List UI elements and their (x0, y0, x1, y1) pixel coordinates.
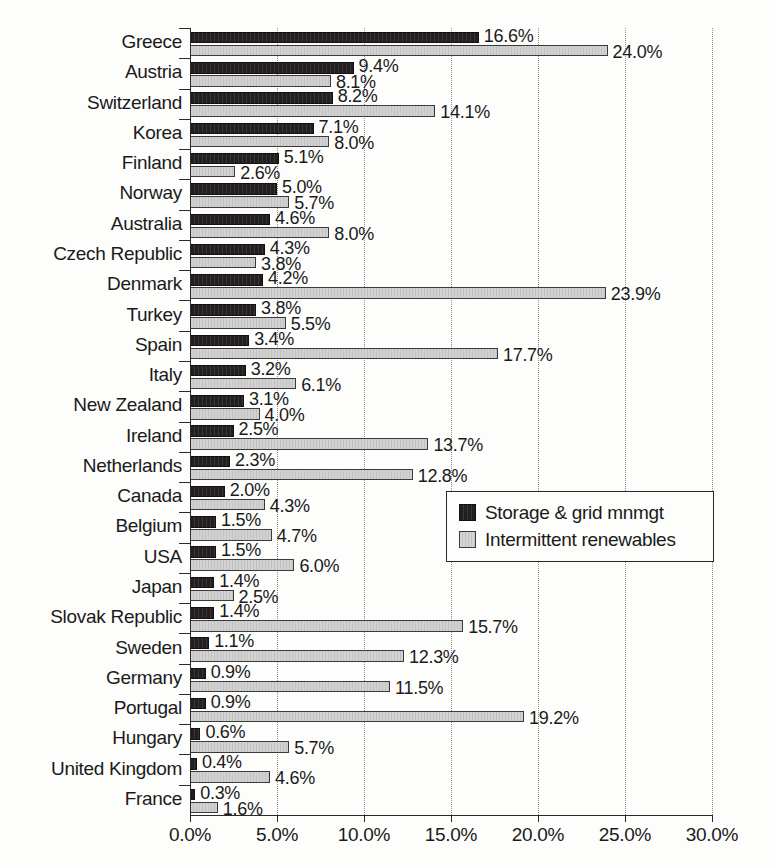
bar-storage[interactable] (190, 92, 333, 104)
y-axis-line (190, 28, 191, 815)
bar-storage[interactable] (190, 335, 249, 347)
y-tick (179, 240, 190, 241)
value-label-storage: 16.6% (484, 26, 534, 47)
category-label-austria: Austria (0, 61, 182, 83)
bar-storage[interactable] (190, 516, 216, 528)
bar-storage[interactable] (190, 425, 234, 437)
bar-storage[interactable] (190, 395, 244, 407)
x-tick-20.0 (538, 815, 539, 822)
bar-renewables[interactable] (190, 136, 329, 148)
category-label-finland: Finland (0, 152, 182, 174)
x-tick-label: 5.0% (256, 824, 298, 846)
y-tick (179, 89, 190, 90)
category-label-greece: Greece (0, 31, 182, 53)
bar-storage[interactable] (190, 607, 214, 619)
x-tick-label: 15.0% (425, 824, 477, 846)
category-label-usa: USA (0, 546, 182, 568)
bar-storage[interactable] (190, 637, 209, 649)
y-tick (179, 270, 190, 271)
y-tick (179, 603, 190, 604)
legend-label-renewables: Intermittent renewables (485, 529, 676, 551)
category-label-czech-republic: Czech Republic (0, 243, 182, 265)
category-label-belgium: Belgium (0, 515, 182, 537)
bar-renewables[interactable] (190, 438, 428, 450)
x-tick-25.0 (625, 815, 626, 822)
bar-storage[interactable] (190, 244, 265, 256)
category-label-sweden: Sweden (0, 637, 182, 659)
value-label-storage: 0.6% (205, 722, 245, 743)
y-tick (179, 361, 190, 362)
value-label-storage: 3.2% (251, 359, 291, 380)
y-tick (179, 179, 190, 180)
y-tick (179, 543, 190, 544)
bar-renewables[interactable] (190, 166, 235, 178)
bar-storage[interactable] (190, 486, 225, 498)
bar-renewables[interactable] (190, 75, 331, 87)
bar-renewables[interactable] (190, 348, 498, 360)
bar-renewables[interactable] (190, 287, 606, 299)
bar-renewables[interactable] (190, 45, 608, 57)
value-label-renewables: 4.3% (270, 496, 310, 517)
value-label-renewables: 15.7% (468, 617, 518, 638)
y-tick (179, 300, 190, 301)
category-label-italy: Italy (0, 364, 182, 386)
y-tick (179, 694, 190, 695)
value-label-renewables: 6.0% (299, 556, 339, 577)
value-label-renewables: 6.1% (301, 375, 341, 396)
legend-item-renewables[interactable]: Intermittent renewables (459, 526, 703, 553)
y-tick (179, 573, 190, 574)
bar-storage[interactable] (190, 728, 200, 740)
value-label-renewables: 17.7% (503, 345, 553, 366)
value-label-storage: 8.2% (338, 86, 378, 107)
category-label-france: France (0, 788, 182, 810)
bar-storage[interactable] (190, 668, 206, 680)
bar-storage[interactable] (190, 365, 246, 377)
bar-storage[interactable] (190, 456, 230, 468)
y-tick (179, 482, 190, 483)
bar-storage[interactable] (190, 123, 314, 135)
value-label-renewables: 8.0% (334, 133, 374, 154)
y-tick (179, 331, 190, 332)
value-label-renewables: 8.0% (334, 224, 374, 245)
bar-storage[interactable] (190, 577, 214, 589)
bar-storage[interactable] (190, 62, 354, 74)
x-tick-5.0 (277, 815, 278, 822)
y-tick (179, 210, 190, 211)
category-label-slovak-republic: Slovak Republic (0, 606, 182, 628)
legend-item-storage[interactable]: Storage & grid mnmgt (459, 499, 703, 526)
value-label-storage: 1.5% (221, 540, 261, 561)
x-tick-label: 10.0% (338, 824, 390, 846)
bar-storage[interactable] (190, 214, 270, 226)
value-label-renewables: 24.0% (613, 42, 663, 63)
bar-storage[interactable] (190, 698, 206, 710)
category-label-turkey: Turkey (0, 304, 182, 326)
x-tick-label: 30.0% (686, 824, 738, 846)
y-tick (179, 58, 190, 59)
category-label-portugal: Portugal (0, 697, 182, 719)
value-label-renewables: 5.7% (294, 738, 334, 759)
category-label-australia: Australia (0, 213, 182, 235)
bar-renewables[interactable] (190, 257, 256, 269)
bar-renewables[interactable] (190, 469, 413, 481)
x-tick-10.0 (364, 815, 365, 822)
y-tick (179, 785, 190, 786)
category-label-ireland: Ireland (0, 425, 182, 447)
bar-storage[interactable] (190, 546, 216, 558)
bar-storage[interactable] (190, 304, 256, 316)
bar-storage[interactable] (190, 274, 263, 286)
bar-storage[interactable] (190, 32, 479, 44)
bar-storage[interactable] (190, 758, 197, 770)
y-tick (179, 391, 190, 392)
bar-renewables[interactable] (190, 105, 435, 117)
bar-chart: GreeceAustriaSwitzerlandKoreaFinlandNorw… (0, 0, 775, 866)
legend-swatch-dark-icon (459, 504, 476, 521)
y-tick (179, 28, 190, 29)
y-tick (179, 664, 190, 665)
bar-storage[interactable] (190, 183, 277, 195)
category-label-denmark: Denmark (0, 273, 182, 295)
x-tick-label: 25.0% (599, 824, 651, 846)
y-tick (179, 724, 190, 725)
value-label-storage: 1.4% (219, 601, 259, 622)
bar-renewables[interactable] (190, 196, 289, 208)
value-label-storage: 4.2% (268, 268, 308, 289)
